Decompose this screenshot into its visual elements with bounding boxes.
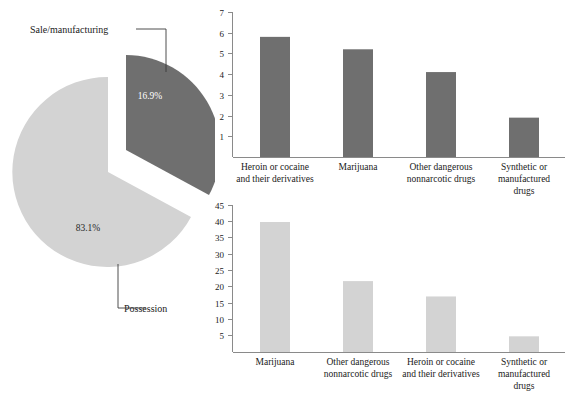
cat-label-top-0-line1: Heroin or cocaine <box>241 162 309 172</box>
cat-label-top-3-line2: manufactured <box>498 174 550 184</box>
y-ticks-bottom <box>228 205 233 336</box>
x-category-labels-bottom: Marijuana Other dangerous nonnarcotic dr… <box>255 357 550 391</box>
bar-bottom-1[interactable] <box>343 281 373 352</box>
cat-label-bottom-3-line2: manufactured <box>498 369 550 379</box>
cat-label-top-3-line1: Synthetic or <box>501 162 548 172</box>
pie-value-possession: 83.1% <box>76 223 101 233</box>
y-tick-label: 3 <box>220 91 225 101</box>
y-tick-labels-top: 7 6 5 4 3 2 1 <box>220 8 225 142</box>
pie-value-sale-manufacturing: 16.9% <box>138 91 163 101</box>
cat-label-bottom-2-line2: and their derivatives <box>402 369 480 379</box>
bar-chart-top-panel: 7 6 5 4 3 2 1 Heroin or cocaine and thei… <box>205 0 575 205</box>
pie-label-possession: Possession <box>124 303 167 314</box>
bar-top-1[interactable] <box>343 49 373 157</box>
y-tick-label: 15 <box>215 299 225 309</box>
x-category-labels-top: Heroin or cocaine and their derivatives … <box>236 162 550 196</box>
bar-top-0[interactable] <box>260 37 290 157</box>
bar-top-3[interactable] <box>509 118 539 157</box>
cat-label-bottom-3-line1: Synthetic or <box>501 357 548 367</box>
y-tick-label: 7 <box>220 8 225 18</box>
y-tick-label: 40 <box>215 217 225 227</box>
y-tick-labels-bottom: 45 40 35 30 25 20 15 10 5 <box>215 201 225 342</box>
y-tick-label: 45 <box>215 201 225 211</box>
cat-label-bottom-3-line3: drugs <box>513 381 534 391</box>
bars-bottom <box>260 222 539 352</box>
y-tick-label: 35 <box>215 233 225 243</box>
bar-chart-bottom-svg: 45 40 35 30 25 20 15 10 5 Marijuana Oth <box>205 195 575 420</box>
y-tick-label: 2 <box>220 112 225 122</box>
y-tick-label: 4 <box>220 70 225 80</box>
pie-chart-panel: Sale/manufacturing 16.9% Possession 83.1… <box>0 0 215 360</box>
cat-label-bottom-1-line2: nonnarcotic drugs <box>324 369 393 379</box>
cat-label-top-0-line2: and their derivatives <box>236 174 314 184</box>
bar-chart-bottom-panel: 45 40 35 30 25 20 15 10 5 Marijuana Oth <box>205 195 575 420</box>
cat-label-bottom-2-line1: Heroin or cocaine <box>407 357 475 367</box>
y-tick-label: 20 <box>215 282 225 292</box>
bar-chart-top-svg: 7 6 5 4 3 2 1 Heroin or cocaine and thei… <box>205 0 575 205</box>
bar-bottom-3[interactable] <box>509 336 539 352</box>
y-ticks-top <box>228 13 233 137</box>
y-tick-label: 6 <box>220 29 225 39</box>
y-tick-label: 10 <box>215 315 225 325</box>
bar-bottom-2[interactable] <box>426 296 456 352</box>
bar-top-2[interactable] <box>426 72 456 157</box>
y-tick-label: 1 <box>220 132 225 142</box>
cat-label-top-2-line2: nonnarcotic drugs <box>407 174 476 184</box>
pie-chart-svg: Sale/manufacturing 16.9% Possession 83.1… <box>0 0 215 360</box>
figure-container: Sale/manufacturing 16.9% Possession 83.1… <box>0 0 575 420</box>
y-tick-label: 5 <box>220 331 225 341</box>
pie-label-sale-manufacturing: Sale/manufacturing <box>30 24 108 35</box>
bars-top <box>260 37 539 157</box>
y-tick-label: 25 <box>215 266 225 276</box>
cat-label-bottom-1-line1: Other dangerous <box>326 357 389 367</box>
cat-label-top-1-line1: Marijuana <box>338 162 378 172</box>
cat-label-top-2-line1: Other dangerous <box>409 162 472 172</box>
cat-label-bottom-0-line1: Marijuana <box>255 357 295 367</box>
bar-bottom-0[interactable] <box>260 222 290 352</box>
y-tick-label: 5 <box>220 49 225 59</box>
pie-leader-possession <box>118 264 146 308</box>
y-tick-label: 30 <box>215 250 225 260</box>
pie-slice-sale-manufacturing[interactable] <box>126 55 215 195</box>
